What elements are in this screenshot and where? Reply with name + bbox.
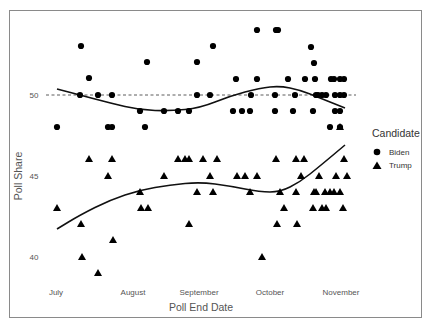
trump-data-point (340, 155, 348, 162)
trump-data-point (53, 204, 61, 211)
biden-data-point (194, 59, 200, 65)
trump-data-point (309, 204, 317, 211)
biden-data-point (290, 108, 296, 114)
biden-data-point (254, 76, 260, 82)
trump-data-point (94, 269, 102, 276)
trump-data-point (209, 188, 217, 195)
trump-data-point (78, 253, 86, 260)
biden-data-point (272, 92, 278, 98)
data-points (53, 27, 351, 276)
trump-trend-curve (57, 145, 345, 229)
biden-data-point (337, 108, 343, 114)
trump-data-point (292, 188, 300, 195)
trump-data-point (297, 172, 305, 179)
biden-data-point (77, 92, 83, 98)
biden-data-point (341, 76, 347, 82)
biden-data-point (311, 60, 317, 66)
x-axis-title: Poll End Date (169, 301, 233, 313)
smooth-curves (57, 87, 345, 229)
legend-label-trump: Trump (389, 161, 412, 170)
trump-data-point (233, 172, 241, 179)
biden-data-point (272, 108, 278, 114)
biden-data-point (233, 76, 239, 82)
biden-data-point (292, 92, 298, 98)
trump-data-point (77, 220, 85, 227)
legend-title: Candidate (372, 127, 420, 139)
biden-data-point (95, 92, 101, 98)
biden-data-point (207, 92, 213, 98)
trump-triangle-icon (373, 162, 382, 170)
biden-data-point (254, 27, 260, 33)
biden-data-point (310, 108, 316, 114)
trump-data-point (253, 172, 261, 179)
biden-trend-curve (57, 87, 345, 111)
biden-data-point (247, 108, 253, 114)
trump-data-point (292, 155, 300, 162)
trump-data-point (339, 204, 347, 211)
x-tick-november: November (323, 288, 360, 297)
trump-data-point (206, 172, 214, 179)
biden-data-point (312, 76, 318, 82)
y-axis-title: Poll Share (12, 152, 24, 201)
biden-data-point (230, 108, 236, 114)
trump-data-point (199, 155, 207, 162)
biden-data-point (327, 124, 333, 130)
y-tick-40: 40 (30, 253, 39, 262)
trump-data-point (85, 155, 93, 162)
trump-data-point (280, 204, 288, 211)
x-tick-october: October (256, 288, 285, 297)
trump-data-point (108, 155, 116, 162)
trump-data-point (258, 253, 266, 260)
biden-data-point (285, 76, 291, 82)
biden-data-point (323, 92, 329, 98)
biden-data-point (175, 108, 181, 114)
trump-data-point (104, 172, 112, 179)
biden-data-point (302, 76, 308, 82)
biden-data-point (161, 108, 167, 114)
trump-data-point (241, 172, 249, 179)
biden-data-point (331, 76, 337, 82)
scatter-chart: 50 45 40 Poll Share July August Septembe… (0, 0, 434, 329)
biden-data-point (210, 43, 216, 49)
trump-data-point (137, 204, 145, 211)
trump-data-point (185, 220, 193, 227)
y-tick-50: 50 (30, 91, 39, 100)
trump-data-point (273, 220, 281, 227)
x-tick-september: September (179, 288, 218, 297)
y-tick-45: 45 (30, 172, 39, 181)
trump-data-point (109, 236, 117, 243)
biden-data-point (109, 124, 115, 130)
trump-data-point (332, 172, 340, 179)
trump-data-point (336, 188, 344, 195)
biden-data-point (144, 59, 150, 65)
biden-data-point (275, 27, 281, 33)
trump-data-point (193, 188, 201, 195)
biden-data-point (137, 108, 143, 114)
trump-data-point (343, 172, 351, 179)
x-tick-august: August (121, 288, 147, 297)
trump-data-point (300, 155, 308, 162)
trump-data-point (144, 204, 152, 211)
biden-circle-icon (374, 149, 381, 156)
trump-data-point (315, 172, 323, 179)
biden-data-point (54, 124, 60, 130)
x-tick-july: July (49, 288, 63, 297)
biden-data-point (239, 108, 245, 114)
trump-data-point (174, 155, 182, 162)
trump-data-point (272, 155, 280, 162)
trump-data-point (213, 155, 221, 162)
biden-data-point (341, 92, 347, 98)
biden-data-point (109, 92, 115, 98)
biden-data-point (194, 92, 200, 98)
legend-label-biden: Biden (389, 148, 409, 157)
biden-data-point (186, 108, 192, 114)
biden-data-point (248, 92, 254, 98)
trump-data-point (160, 172, 168, 179)
trump-data-point (293, 220, 301, 227)
biden-data-point (308, 44, 314, 50)
biden-data-point (142, 124, 148, 130)
biden-data-point (86, 75, 92, 81)
legend: Candidate Biden Trump (372, 127, 420, 170)
biden-data-point (78, 43, 84, 49)
